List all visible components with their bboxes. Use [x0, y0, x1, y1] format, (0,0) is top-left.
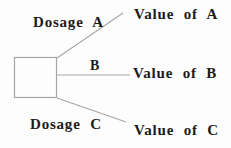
branch-label-dosage-c: Dosage C: [30, 117, 102, 132]
decision-tree-diagram: Dosage A B Dosage C Value of A Value of …: [0, 0, 231, 148]
branch-label-b: B: [90, 59, 100, 73]
outcome-label-value-b: Value of B: [133, 66, 217, 81]
outcome-label-value-c: Value of C: [134, 123, 219, 138]
decision-node-square: [15, 58, 57, 98]
outcome-label-value-a: Value of A: [134, 7, 218, 22]
branch-label-dosage-a: Dosage A: [33, 15, 104, 30]
